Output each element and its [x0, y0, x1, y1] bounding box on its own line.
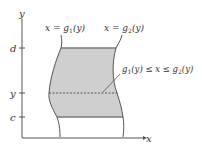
label-g1: x = g1(y) [45, 23, 86, 34]
inequality-label: g1(y) ≤ x ≤ g2(y) [122, 64, 193, 75]
y-axis-label: y [18, 8, 25, 19]
region-diagram: y x d y c x = g1(y) x = g2(y) g1(y) ≤ x … [0, 0, 202, 157]
tick-label-y: y [9, 88, 16, 99]
x-axis-label: x [146, 133, 152, 144]
label-g2: x = g2(y) [104, 23, 145, 34]
tick-label-c: c [10, 112, 16, 123]
tick-label-d: d [10, 43, 16, 54]
